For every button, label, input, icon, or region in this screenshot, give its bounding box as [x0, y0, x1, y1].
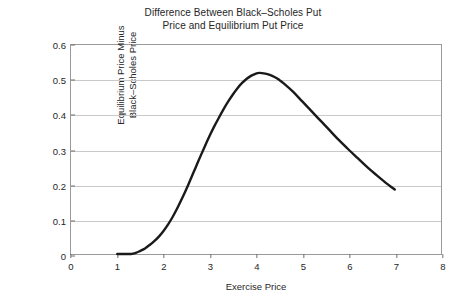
x-tick-mark — [163, 254, 164, 258]
x-tick-label: 2 — [161, 261, 166, 272]
y-tick-0.5: 0.5 — [53, 75, 71, 86]
x-tick-label: 0 — [68, 261, 73, 272]
x-tick-mark — [256, 254, 257, 258]
x-tick-3: 3 — [208, 254, 213, 272]
x-tick-mark — [442, 254, 443, 258]
x-tick-mark — [70, 254, 71, 258]
y-tick-0.1: 0.1 — [53, 215, 71, 226]
x-tick-1: 1 — [115, 254, 120, 272]
y-tick-label: 0.2 — [53, 180, 71, 191]
x-tick-label: 5 — [301, 261, 306, 272]
x-tick-label: 6 — [347, 261, 352, 272]
x-tick-mark — [349, 254, 350, 258]
x-tick-5: 5 — [301, 254, 306, 272]
y-tick-label: 0.1 — [53, 215, 71, 226]
x-tick-label: 4 — [254, 261, 259, 272]
y-tick-label: 0.6 — [53, 40, 71, 51]
series-line-equilibrium-minus-black-scholes — [117, 73, 395, 254]
x-tick-0: 0 — [68, 254, 73, 272]
plot-area: Equilibrium Price Minus Black–Scholes Pr… — [70, 44, 442, 255]
x-tick-7: 7 — [394, 254, 399, 272]
x-tick-label: 8 — [440, 261, 445, 272]
y-tick-label: 0.5 — [53, 75, 71, 86]
x-tick-mark — [396, 254, 397, 258]
x-tick-label: 1 — [115, 261, 120, 272]
chart-figure: Difference Between Black–Scholes Put Pri… — [0, 0, 466, 306]
y-tick-label: 0.3 — [53, 145, 71, 156]
x-tick-8: 8 — [440, 254, 445, 272]
x-tick-mark — [303, 254, 304, 258]
y-tick-0.2: 0.2 — [53, 180, 71, 191]
x-tick-label: 3 — [208, 261, 213, 272]
x-tick-label: 7 — [394, 261, 399, 272]
chart-title: Difference Between Black–Scholes Put Pri… — [0, 6, 466, 32]
x-tick-2: 2 — [161, 254, 166, 272]
y-tick-label: 0.4 — [53, 110, 71, 121]
y-tick-0.3: 0.3 — [53, 145, 71, 156]
x-tick-4: 4 — [254, 254, 259, 272]
x-tick-mark — [210, 254, 211, 258]
y-tick-0.6: 0.6 — [53, 40, 71, 51]
x-tick-6: 6 — [347, 254, 352, 272]
y-tick-0.4: 0.4 — [53, 110, 71, 121]
data-curve-layer — [71, 45, 441, 254]
x-axis-label: Exercise Price — [70, 281, 442, 292]
